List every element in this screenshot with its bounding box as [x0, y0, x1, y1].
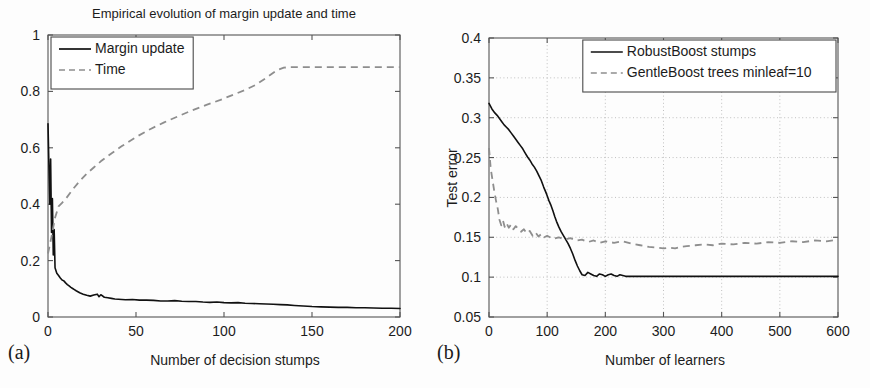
chart-panel-a: Empirical evolution of margin update and…: [0, 0, 435, 388]
series-line: [48, 67, 400, 253]
y-tick-label: 0.35: [454, 70, 481, 86]
x-tick-label: 150: [300, 323, 324, 339]
x-tick-label: 100: [535, 323, 559, 339]
panel-b-tag: (b): [437, 341, 460, 364]
y-tick-label: 0.2: [462, 189, 482, 205]
chart-panel-b: 01002003004005006000.050.10.150.20.250.3…: [435, 0, 870, 388]
chart-a-svg: Empirical evolution of margin update and…: [0, 0, 435, 388]
x-tick-label: 600: [826, 323, 850, 339]
x-tick-label: 0: [44, 323, 52, 339]
y-tick-label: 0.2: [21, 253, 41, 269]
x-tick-label: 100: [212, 323, 236, 339]
chart-b-legend[interactable]: RobustBoost stumpsGentleBoost trees minl…: [583, 40, 836, 92]
x-tick-label: 200: [388, 323, 412, 339]
chart-a-title: Empirical evolution of margin update and…: [92, 6, 356, 21]
chart-a-legend[interactable]: Margin updateTime: [51, 37, 193, 89]
x-tick-label: 0: [485, 323, 493, 339]
legend-entry-label: Margin update: [95, 40, 185, 56]
legend-entry-label: RobustBoost stumps: [627, 43, 756, 59]
y-tick-label: 0.6: [21, 140, 41, 156]
y-tick-label: 1: [32, 27, 40, 43]
x-tick-label: 400: [710, 323, 734, 339]
chart-b-yaxis-label: Test error: [444, 148, 460, 207]
y-tick-label: 0.05: [454, 309, 481, 325]
y-tick-label: 0: [32, 309, 40, 325]
chart-a-series: [48, 67, 400, 308]
y-tick-label: 0.3: [462, 110, 482, 126]
x-tick-label: 200: [594, 323, 618, 339]
x-tick-label: 500: [768, 323, 792, 339]
x-tick-label: 50: [128, 323, 144, 339]
legend-entry-label: Time: [95, 61, 126, 77]
series-line: [48, 124, 400, 309]
x-tick-label: 300: [652, 323, 676, 339]
figure-container: Empirical evolution of margin update and…: [0, 0, 870, 388]
y-tick-label: 0.15: [454, 229, 481, 245]
y-tick-label: 0.4: [21, 196, 41, 212]
chart-b-xaxis-label: Number of learners: [605, 352, 725, 368]
chart-a-xaxis-label: Number of decision stumps: [150, 352, 320, 368]
legend-entry-label: GentleBoost trees minleaf=10: [627, 64, 812, 80]
y-tick-label: 0.1: [462, 269, 482, 285]
panel-a-tag: (a): [8, 341, 30, 364]
y-tick-label: 0.8: [21, 83, 41, 99]
chart-b-svg: 01002003004005006000.050.10.150.20.250.3…: [435, 0, 870, 388]
y-tick-label: 0.4: [462, 30, 482, 46]
